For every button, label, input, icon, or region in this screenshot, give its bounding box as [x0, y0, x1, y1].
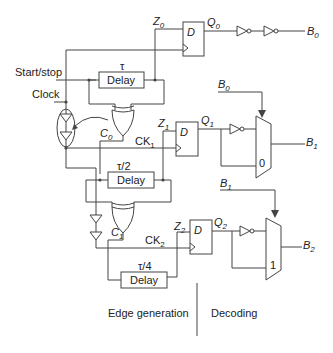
svg-text:τ/2: τ/2	[117, 160, 131, 172]
z2-label: Z2	[173, 220, 186, 235]
ff0-d-label: D	[187, 26, 195, 38]
circuit-diagram: Z0 D Q0 B0 Start/stop Clock τ Delay	[0, 0, 333, 353]
svg-text:τ/4: τ/4	[138, 260, 152, 272]
q2-label: Q2	[214, 216, 228, 231]
inverter-icon	[240, 226, 250, 236]
edge-generation-label: Edge generation	[108, 307, 189, 319]
q1-label: Q1	[201, 114, 214, 129]
inverter-icon	[264, 26, 274, 36]
b2-output-label: B2	[303, 239, 315, 254]
c0-label: C0	[100, 127, 113, 142]
svg-text:D: D	[194, 224, 202, 236]
z0-label: Z0	[152, 15, 165, 30]
buffer-icon	[90, 232, 102, 240]
buffer-icon	[90, 215, 102, 223]
svg-text:Delay: Delay	[107, 74, 136, 86]
clock-label: Clock	[32, 88, 60, 100]
q0-label: Q0	[207, 16, 221, 31]
b0-output-label: B0	[307, 25, 319, 40]
delay-tau: τ Delay	[87, 60, 164, 110]
tau-label: τ	[120, 60, 125, 72]
b1-output-label: B1	[306, 136, 318, 151]
inverter-icon	[230, 124, 240, 134]
svg-text:D: D	[180, 126, 188, 138]
svg-text:Delay: Delay	[117, 174, 146, 186]
svg-text:Delay: Delay	[130, 274, 159, 286]
z1-label: Z1	[157, 117, 169, 132]
ck2-label: CK2	[145, 234, 165, 249]
mux1-select-label: B0	[218, 78, 230, 93]
inverter-icon	[237, 26, 247, 36]
svg-text:0: 0	[259, 157, 265, 169]
xor-gate-0	[112, 110, 134, 136]
stage-0: Z0 D Q0 B0	[66, 15, 319, 80]
decoding-label: Decoding	[211, 307, 257, 319]
buffer-icon	[60, 132, 72, 140]
svg-text:1: 1	[270, 259, 276, 271]
start-stop-label: Start/stop	[15, 66, 62, 78]
buffer-icon	[60, 114, 72, 122]
